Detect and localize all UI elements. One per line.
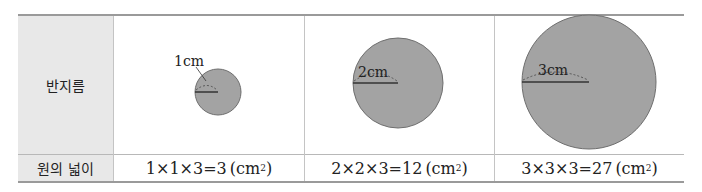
area-formula-2: 2×2×3=12: [331, 159, 422, 178]
area-cell-1: 1×1×3=3 (cm2): [114, 155, 304, 181]
circle-radius-1: 1cm: [174, 53, 241, 115]
radius-label-2: 2cm: [358, 64, 388, 80]
area-cell-3: 3×3×3=27 (cm2): [495, 155, 684, 181]
area-unit-3: (cm: [615, 159, 645, 178]
circles-figure: 1cm 2cm 3cm: [18, 14, 684, 154]
row-header-area: 원의 넓이: [18, 155, 113, 181]
circle-area-table: 반지름 원의 넓이 1cm 2cm 3cm 1×1×3=3 (cm: [18, 14, 684, 182]
area-formula-3: 3×3×3=27: [521, 159, 612, 178]
circle-radius-2: 2cm: [353, 38, 443, 128]
unit-close: ): [461, 159, 467, 178]
area-unit-2: (cm: [425, 159, 455, 178]
unit-close: ): [266, 159, 272, 178]
radius-label-1: 1cm: [174, 53, 204, 69]
area-cell-2: 2×2×3=12 (cm2): [305, 155, 494, 181]
unit-close: ): [651, 159, 657, 178]
circle-radius-3: 3cm: [522, 15, 656, 149]
table-bottom-border: [18, 181, 684, 183]
area-formula-1: 1×1×3=3: [146, 159, 227, 178]
area-unit-1: (cm: [230, 159, 260, 178]
radius-label-3: 3cm: [538, 62, 568, 78]
